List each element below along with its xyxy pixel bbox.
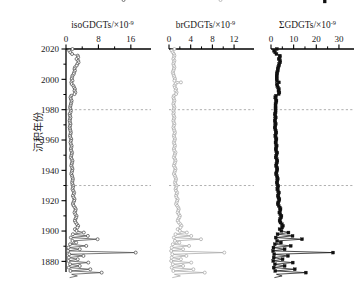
panel-2-data-point [291, 234, 294, 237]
panel-0-data-point [69, 269, 72, 272]
panel-2-data-point [332, 251, 335, 254]
panel-2-data-point [276, 233, 279, 236]
panel-1-data-point [178, 229, 181, 232]
y-axis-tick-label: 2020 [41, 44, 60, 54]
panel-2-data-point [286, 254, 289, 257]
panel-1-data-point [185, 254, 188, 257]
panel-1-data-point [188, 244, 191, 247]
panel-0-data-point [67, 259, 70, 262]
panel-2-data-point [274, 236, 277, 239]
panel-0-data-point [78, 264, 81, 267]
panel-0-data-point [67, 249, 70, 252]
panel-0-data-point [78, 248, 81, 251]
panel-2-data-point [279, 241, 282, 244]
panel-2-data-point [281, 258, 284, 261]
panel-0-data-point [69, 236, 72, 239]
panel-0-x-tick-label: 8 [96, 34, 101, 44]
panel-1-data-point [203, 271, 206, 274]
panel-1-data-point [199, 238, 202, 241]
panel-2-data-point [273, 253, 276, 256]
panel-1-data-point [172, 269, 175, 272]
panel-0-data-point [71, 48, 74, 51]
panel-0-data-point [75, 241, 78, 244]
panel-1-data-point [173, 79, 176, 82]
panel-2-data-point [272, 259, 275, 262]
panel-1-data-point [171, 253, 174, 256]
panel-1-data-point [185, 231, 188, 234]
panel-1-data-point [172, 236, 175, 239]
panel-2-x-tick-label: 10 [289, 34, 299, 44]
panel-0-data-point [76, 258, 79, 261]
panel-2-x-tick-label: 30 [334, 34, 344, 44]
panel-2-data-point [291, 261, 294, 264]
panel-1-data-point [182, 248, 185, 251]
panel-0-x-tick-label: 0 [64, 34, 69, 44]
panel-0-data-point [89, 268, 92, 271]
panel-0-data-point [96, 238, 99, 241]
panel-2-data-point [273, 263, 276, 266]
panel-1-data-point [171, 243, 174, 246]
panel-0-x-tick-label: 16 [126, 34, 136, 44]
panel-1-data-point [170, 259, 173, 262]
panel-0-series-line [68, 49, 136, 278]
panel-0-data-point [75, 229, 78, 232]
panel-2-x-tick-label: 0 [269, 34, 274, 44]
panel-1-x-tick-label: 0 [167, 34, 172, 44]
panel-1-data-point [192, 268, 195, 271]
y-axis-label: 沉积年份 [30, 97, 45, 167]
y-axis-tick-label: 1900 [41, 226, 60, 236]
panel-2-data-point [272, 249, 275, 252]
y-axis-tick-label: 1940 [41, 166, 60, 176]
panel-2-data-point [289, 244, 292, 247]
panel-0-data-point [67, 266, 70, 269]
panel-1-data-point [179, 81, 182, 84]
panel-2-data-point [304, 271, 307, 274]
panel-1-data-point [170, 246, 173, 249]
panel-1-data-point [170, 256, 173, 259]
panel-2-data-point [275, 48, 278, 51]
panel-0-data-point [73, 93, 76, 96]
panel-1-x-tick-label: 12 [230, 34, 239, 44]
panel-0-data-point [71, 53, 74, 56]
panel-0-data-point [87, 261, 90, 264]
panel-1-x-tick-label: 4 [188, 34, 193, 44]
panel-0-data-point [100, 271, 103, 274]
panel-1-data-point [170, 249, 173, 252]
y-axis-tick-label: 2000 [41, 75, 60, 85]
panel-1-data-point [190, 261, 193, 264]
panel-1-data-point [190, 234, 193, 237]
panel-1-data-point [179, 258, 182, 261]
panel-2-x-tick-label: 20 [312, 34, 322, 44]
panel-2-data-point [274, 269, 277, 272]
panel-2-data-point [301, 238, 304, 241]
panel-2-data-point [287, 231, 290, 234]
panel-1-data-point [171, 263, 174, 266]
panel-1-data-point [182, 264, 185, 267]
gdgt-depth-profile-figure: 沉积年份 20202000198019601940192019001880081… [0, 0, 354, 288]
panel-2-data-point [283, 248, 286, 251]
panel-2-data-point [323, 0, 326, 3]
panel-1-data-point [223, 251, 226, 254]
panel-0-data-point [69, 263, 72, 266]
panel-0-data-point [122, 0, 125, 2]
panel-0-data-point [134, 251, 137, 254]
panel-0-data-point [71, 239, 74, 242]
panel-0-data-point [85, 244, 88, 247]
panel-1-data-point [173, 239, 176, 242]
panel-0-data-point [67, 256, 70, 259]
panel-1-data-point [174, 233, 177, 236]
panel-1-data-point [170, 266, 173, 269]
y-axis-tick-label: 1920 [41, 196, 60, 206]
plot-canvas: 202020001980196019401920190018800816isoG… [0, 0, 354, 288]
panel-0-title: isoGDGTs/×10-9 [71, 19, 134, 30]
panel-0-data-point [71, 233, 74, 236]
panel-1-data-point [178, 241, 181, 244]
panel-0-data-point [68, 253, 71, 256]
y-axis-tick-label: 1880 [41, 257, 60, 267]
panel-2-data-point [273, 243, 276, 246]
panel-1-title: brGDGTs/×10-9 [176, 19, 235, 30]
panel-0-data-point [86, 234, 89, 237]
panel-2-data-point [293, 268, 296, 271]
panel-0-data-point [69, 243, 72, 246]
panel-1-data-point [219, 0, 222, 2]
